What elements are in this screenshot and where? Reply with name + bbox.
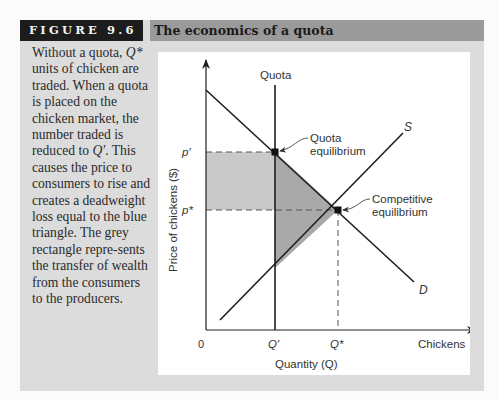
quota-equilibrium-leader [280,138,308,151]
figure-number-label: FIGURE 9.6 [20,20,143,41]
caption-text: Without a quota, [32,45,126,60]
competitive-equilibrium-leader [343,199,370,210]
p-star-tick-label: p* [181,204,193,216]
demand-label: D [419,283,428,297]
quota-equilibrium-point [272,149,279,156]
q-prime-tick-label: Q′ [268,338,280,350]
caption-q-prime: Q′ [92,143,105,158]
competitive-equilibrium-point [335,207,342,214]
caption-q-star: Q* [126,45,143,60]
caption-text: . This causes the price to consumers to … [32,143,150,306]
figure-caption: Without a quota, Q* units of chicken are… [32,45,152,308]
q-star-tick-label: Q* [330,338,344,350]
y-axis-title: Price of chickens ($) [167,168,179,272]
p-prime-tick-label: p′ [181,146,191,158]
competitive-equilibrium-label-line1: Competitive [372,193,433,205]
transfer-rectangle [206,152,275,210]
competitive-equilibrium-label-line2: equilibrium [372,206,428,218]
supply-demand-chart: Quota Quota equilibrium Competitive equi… [158,52,470,375]
x-axis-title: Quantity (Q) [275,358,338,370]
x-axis-end-label: Chickens [418,338,466,350]
supply-label: S [404,120,412,134]
figure-title: The economics of a quota [154,20,334,41]
origin-label: 0 [198,338,204,350]
figure-title-bar: The economics of a quota [150,20,484,41]
figure-panel: FIGURE 9.6 The economics of a quota With… [20,20,484,391]
quota-equilibrium-label-line1: Quota [310,132,342,144]
quota-equilibrium-label-line2: equilibrium [310,145,366,157]
chart-panel: Quota Quota equilibrium Competitive equi… [158,52,470,375]
quota-line-label: Quota [260,69,292,81]
